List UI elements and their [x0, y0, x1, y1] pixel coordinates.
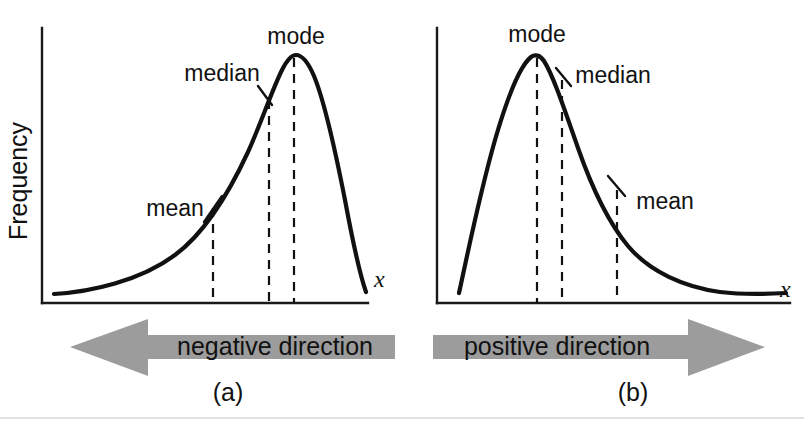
panel-a-mean-label: mean [146, 195, 204, 221]
x-axis-label-a: x [373, 266, 385, 292]
panel-b-median-leader [556, 68, 571, 86]
panel-b-mode-label: mode [508, 21, 566, 47]
positive-direction-label: positive direction [464, 332, 650, 360]
x-axis-label-b: x [779, 276, 791, 302]
y-axis-label-a: Frequency [4, 121, 32, 240]
panel-a: Frequency x mean median mode negative di… [4, 23, 395, 406]
panel-a-mean-leader [204, 196, 222, 222]
panel-a-median-label: median [184, 60, 259, 86]
panel-a-distribution-curve [54, 55, 366, 294]
figure-canvas: Frequency x mean median mode negative di… [0, 0, 804, 433]
panel-b: x mode median mean positive direction (b… [433, 21, 791, 406]
panel-b-median-label: median [575, 62, 650, 88]
panel-a-caption: (a) [213, 378, 244, 406]
panel-a-mode-label: mode [267, 23, 325, 49]
panel-b-mean-label: mean [636, 188, 694, 214]
panel-b-caption: (b) [618, 378, 649, 406]
skewness-figure: Frequency x mean median mode negative di… [0, 0, 804, 433]
negative-direction-label: negative direction [177, 332, 373, 360]
panel-b-distribution-curve [459, 55, 786, 294]
